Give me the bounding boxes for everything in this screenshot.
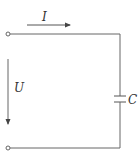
current-label: I (41, 10, 47, 24)
voltage-label: U (14, 81, 25, 95)
circuit-diagram: I C U (0, 0, 140, 158)
capacitor-label: C (128, 93, 137, 107)
terminal-bottom (6, 146, 10, 150)
terminal-top (6, 32, 10, 36)
